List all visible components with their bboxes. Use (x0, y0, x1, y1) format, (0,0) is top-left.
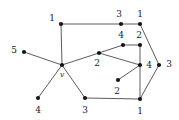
graph-vertex (138, 43, 142, 47)
graph-vertex (138, 22, 142, 26)
graph-vertex (121, 43, 125, 47)
graph-vertex (36, 96, 40, 100)
graph-vertex (59, 22, 63, 26)
graph-figure: v1543231424321 (0, 0, 179, 120)
graph-vertex (138, 97, 142, 101)
graph-edge (61, 24, 62, 65)
graph-vertex (60, 63, 64, 67)
graph-vertex (119, 22, 123, 26)
graph-edge (99, 53, 140, 65)
graph-edge (99, 45, 123, 53)
graph-edge (118, 65, 140, 80)
graph-edge (85, 98, 140, 99)
graph-edge (140, 24, 159, 65)
graph-canvas (0, 0, 179, 120)
graph-vertex (83, 96, 87, 100)
graph-vertex (97, 51, 101, 55)
graph-edge (62, 65, 85, 98)
graph-edge (140, 65, 159, 99)
graph-edge (38, 65, 62, 98)
graph-vertex (116, 78, 120, 82)
graph-vertex (157, 63, 161, 67)
graph-edge (24, 52, 62, 65)
graph-vertex (22, 50, 26, 54)
graph-edge (62, 53, 99, 65)
graph-vertex (138, 63, 142, 67)
edges-group (24, 24, 159, 99)
